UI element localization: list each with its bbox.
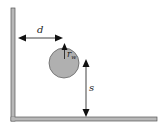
label-d: d [37,24,43,35]
ball-wall-diagram: d rw s [0,0,168,131]
label-s: s [89,82,94,93]
distance-d-arrow [18,35,63,42]
